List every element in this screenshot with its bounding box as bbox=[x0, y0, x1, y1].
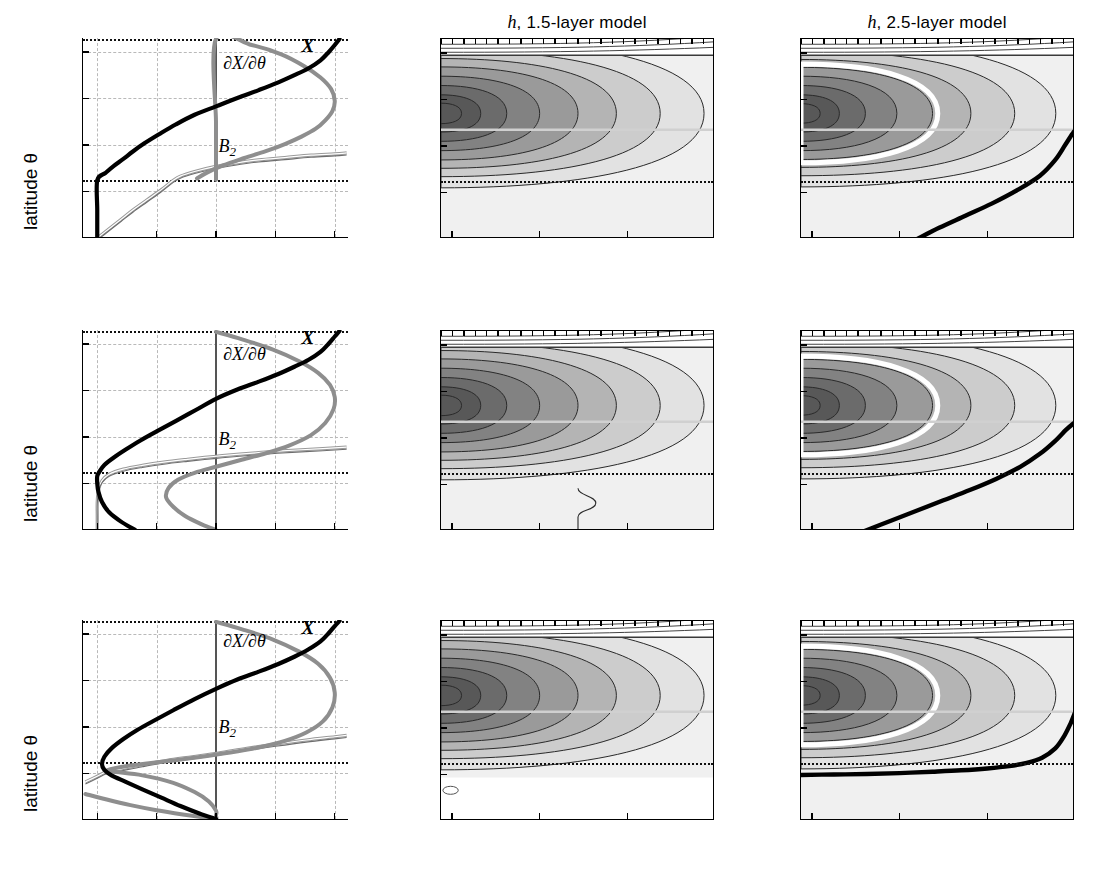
x-tickmark bbox=[275, 523, 276, 529]
top-tickmark bbox=[1006, 39, 1007, 44]
top-tickmark bbox=[812, 39, 813, 44]
top-tickmark bbox=[960, 621, 961, 626]
top-tickmark bbox=[926, 621, 927, 626]
top-tickmark bbox=[857, 331, 858, 336]
x-tickmark bbox=[811, 523, 812, 529]
top-tickmark bbox=[1040, 39, 1041, 44]
top-tickmark bbox=[475, 331, 476, 336]
y-tickmark bbox=[83, 343, 89, 344]
top-tickmark bbox=[994, 331, 995, 336]
plot-frame: 010203040−120−80−400longitude bbox=[440, 38, 714, 238]
x-tickmark bbox=[275, 813, 276, 819]
top-tickmark bbox=[669, 621, 670, 626]
y-tickmark bbox=[83, 773, 89, 774]
x-tickmark bbox=[451, 813, 452, 819]
top-tickmark bbox=[509, 621, 510, 626]
y-tickmark bbox=[441, 52, 447, 53]
curve-annotation: X bbox=[302, 330, 315, 349]
curve-B2-outer bbox=[97, 447, 346, 530]
x-tickmark bbox=[987, 813, 988, 819]
y-tickmark bbox=[801, 145, 807, 146]
top-tickmark bbox=[577, 331, 578, 336]
top-tickmark bbox=[835, 39, 836, 44]
y-tickmark bbox=[441, 344, 447, 345]
y-tickmark bbox=[801, 681, 807, 682]
profile-curves bbox=[83, 38, 348, 238]
x-tickmark bbox=[334, 231, 335, 237]
curve-annotation: ∂X/∂θ bbox=[223, 53, 266, 74]
y-tickmark bbox=[801, 192, 807, 193]
top-tickmark bbox=[497, 621, 498, 626]
top-tickmark bbox=[846, 621, 847, 626]
top-tickmark bbox=[703, 621, 704, 626]
top-tickmark bbox=[463, 621, 464, 626]
top-tickmark bbox=[532, 331, 533, 336]
top-tickmark bbox=[949, 331, 950, 336]
top-tickmark bbox=[1063, 621, 1064, 626]
top-tickmark bbox=[812, 331, 813, 336]
top-tickmark bbox=[680, 621, 681, 626]
top-tickmark bbox=[554, 621, 555, 626]
contour-field bbox=[441, 39, 714, 238]
theta-I-dotted-line bbox=[801, 473, 1073, 475]
top-tickmark bbox=[532, 39, 533, 44]
top-tickmark bbox=[926, 39, 927, 44]
x-tickmark bbox=[156, 231, 157, 237]
plot-frame: 010203040−120−80−400longitude bbox=[440, 330, 714, 530]
plot-frame: 010203040−1−0.500.51normalized valuesX∂X… bbox=[82, 38, 348, 238]
y-tickmark bbox=[83, 819, 89, 820]
top-tickmark bbox=[463, 331, 464, 336]
top-tickmark bbox=[646, 331, 647, 336]
top-tickmark bbox=[646, 39, 647, 44]
y-tickmark bbox=[441, 391, 447, 392]
y-tickmark bbox=[83, 144, 89, 145]
top-tickmark bbox=[972, 331, 973, 336]
top-tickmark bbox=[914, 331, 915, 336]
top-tickmark bbox=[800, 621, 801, 626]
y-tickmark bbox=[83, 191, 89, 192]
x-tickmark bbox=[811, 231, 812, 237]
contour-field bbox=[441, 331, 714, 530]
x-tickmark bbox=[987, 231, 988, 237]
curve-annotation: B2 bbox=[218, 717, 236, 741]
curve-annotation: ∂X/∂θ bbox=[223, 631, 266, 652]
top-tickmark bbox=[497, 331, 498, 336]
top-tickmark bbox=[1006, 331, 1007, 336]
top-tickmark bbox=[892, 331, 893, 336]
x-tickmark bbox=[451, 523, 452, 529]
top-tickmark bbox=[440, 39, 441, 44]
title-symbol-h: h bbox=[867, 12, 876, 32]
profile-curves bbox=[83, 620, 348, 820]
top-tickmark bbox=[1029, 331, 1030, 336]
x-tickmark bbox=[334, 813, 335, 819]
top-tickmark bbox=[835, 621, 836, 626]
top-tickmark bbox=[1017, 621, 1018, 626]
top-tickmark bbox=[566, 39, 567, 44]
top-tickmark bbox=[691, 39, 692, 44]
top-tickmark bbox=[800, 331, 801, 336]
curve-annotation: B2 bbox=[218, 136, 236, 160]
top-tickmark bbox=[669, 39, 670, 44]
panel-contour-r1c2: h, 1.5-layer model010203040−120−80−400lo… bbox=[440, 38, 714, 238]
top-tickmark bbox=[1006, 621, 1007, 626]
x-tickmark bbox=[539, 813, 540, 819]
title-text: , 2.5-layer model bbox=[877, 13, 1007, 32]
y-tickmark bbox=[441, 634, 447, 635]
contour-field bbox=[801, 621, 1074, 820]
x-tickmark bbox=[451, 231, 452, 237]
y-tickmark bbox=[441, 99, 447, 100]
figure-root: 010203040−1−0.500.51normalized valuesX∂X… bbox=[0, 0, 1113, 876]
y-axis-label: latitude θ bbox=[20, 153, 42, 230]
top-tickmark bbox=[669, 331, 670, 336]
panel-contour-r2c3: 010203040−120−80−400longitudeθDθIθB bbox=[800, 330, 1074, 530]
top-tickmark bbox=[1017, 331, 1018, 336]
x-tickmark bbox=[539, 231, 540, 237]
y-axis-label: latitude θ bbox=[20, 445, 42, 522]
top-tickmark bbox=[543, 39, 544, 44]
x-tickmark bbox=[97, 231, 98, 237]
y-tickmark bbox=[441, 681, 447, 682]
top-tickmark bbox=[903, 621, 904, 626]
top-tickmark bbox=[892, 621, 893, 626]
top-tickmark bbox=[566, 331, 567, 336]
x-tickmark bbox=[899, 231, 900, 237]
